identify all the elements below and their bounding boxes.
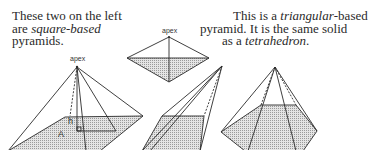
apex-label-tetrahedron: apex: [162, 27, 178, 35]
oblique-square-pyramid: [142, 66, 222, 150]
apex-label: apex: [70, 55, 86, 63]
tetrahedron: [127, 36, 209, 82]
area-label: A: [58, 129, 64, 139]
triangular-base: [127, 58, 209, 82]
square-base: [8, 116, 143, 150]
square-base-oblique: [142, 116, 204, 150]
large-square-pyramid: [8, 66, 143, 150]
height-label: h: [68, 116, 73, 126]
hexagonal-pyramid: [221, 67, 317, 150]
hexagonal-base: [221, 105, 317, 150]
